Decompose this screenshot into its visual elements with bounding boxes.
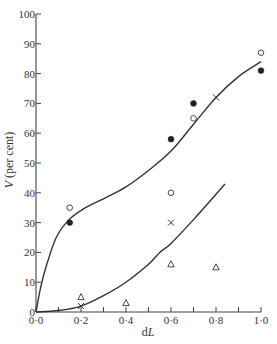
data-points [67, 50, 264, 309]
upper-fitted-curve [36, 62, 261, 312]
y-tick-label: 30 [24, 217, 36, 229]
x-tick-label: 1·0 [254, 314, 269, 326]
open-circle-point [258, 50, 264, 56]
filled-circle-point [258, 68, 264, 74]
y-tick-label: 10 [24, 276, 36, 288]
cross-point [213, 94, 219, 100]
y-tick-label: 80 [24, 68, 36, 80]
filled-circle-point [168, 136, 174, 142]
y-tick-label: 70 [24, 97, 36, 109]
y-tick-label: 60 [24, 127, 36, 139]
y-tick-label: 0 [30, 306, 36, 318]
chart: 0·00·20·40·60·81·00102030405060708090100… [0, 0, 277, 344]
y-tick-label: 20 [24, 246, 36, 258]
triangle-point [168, 261, 174, 267]
x-tick-label: 0·6 [164, 314, 179, 326]
y-axis-label: V (per cent) [2, 132, 16, 189]
triangle-point [213, 264, 219, 270]
x-tick-label: 0·8 [209, 314, 224, 326]
triangle-point [123, 300, 129, 306]
axes: 0·00·20·40·60·81·00102030405060708090100 [19, 8, 269, 326]
y-tick-label: 50 [24, 157, 36, 169]
lower-fitted-curve [36, 184, 225, 312]
open-circle-point [191, 116, 197, 122]
x-axis-label: dL [142, 325, 155, 339]
triangle-point [78, 294, 84, 300]
filled-circle-point [67, 220, 73, 226]
cross-point [168, 220, 174, 226]
y-tick-label: 90 [24, 38, 36, 50]
y-tick-label: 100 [19, 8, 36, 20]
open-circle-point [67, 205, 73, 211]
x-tick-label: 0·2 [74, 314, 89, 326]
y-tick-label: 40 [24, 187, 36, 199]
curves [36, 62, 261, 312]
open-circle-point [168, 190, 174, 196]
x-tick-label: 0·4 [119, 314, 134, 326]
filled-circle-point [191, 101, 197, 107]
